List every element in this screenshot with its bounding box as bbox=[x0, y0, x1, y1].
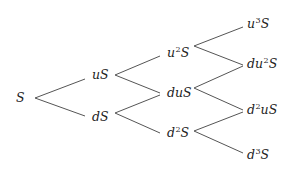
node-label: duS bbox=[167, 85, 192, 100]
node-label: dS bbox=[92, 109, 109, 124]
tree-edge bbox=[35, 98, 85, 116]
node-s: S bbox=[16, 92, 25, 105]
tree-edge bbox=[194, 88, 243, 110]
tree-edge bbox=[194, 66, 243, 88]
node-dus: duS bbox=[167, 87, 192, 100]
tree-edge bbox=[194, 46, 243, 65]
node-d3s: d3S bbox=[247, 148, 269, 162]
tree-edge bbox=[194, 131, 243, 153]
node-label-suffix: S bbox=[181, 45, 190, 60]
node-label-base: d bbox=[167, 125, 175, 140]
node-label-base: d bbox=[247, 102, 255, 117]
node-label-base: du bbox=[247, 56, 263, 71]
node-label-suffix: uS bbox=[261, 102, 278, 117]
node-ds: dS bbox=[92, 111, 109, 124]
node-label: uS bbox=[92, 67, 109, 82]
node-label-suffix: S bbox=[261, 147, 270, 162]
node-label-base: u bbox=[167, 45, 175, 60]
tree-edge bbox=[35, 79, 85, 98]
tree-edge bbox=[115, 95, 160, 113]
tree-edge bbox=[115, 75, 160, 93]
node-label-suffix: S bbox=[261, 16, 270, 31]
node-d2s: d2S bbox=[167, 126, 189, 140]
node-us: uS bbox=[92, 69, 109, 82]
binomial-tree-diagram: S uS dS u2S duS d2S u3S du2S d2uS d3S bbox=[0, 0, 291, 173]
tree-edge bbox=[115, 56, 160, 75]
node-du2s: du2S bbox=[247, 57, 277, 71]
node-u2s: u2S bbox=[167, 46, 189, 60]
tree-edge bbox=[194, 27, 243, 46]
tree-edge bbox=[194, 112, 243, 131]
tree-edge bbox=[115, 113, 160, 133]
node-u3s: u3S bbox=[247, 17, 269, 31]
node-label-base: u bbox=[247, 16, 255, 31]
node-label-suffix: S bbox=[181, 125, 190, 140]
node-label-base: d bbox=[247, 147, 255, 162]
node-label-suffix: S bbox=[269, 56, 278, 71]
node-label: S bbox=[16, 90, 25, 105]
node-d2us: d2uS bbox=[247, 103, 277, 117]
